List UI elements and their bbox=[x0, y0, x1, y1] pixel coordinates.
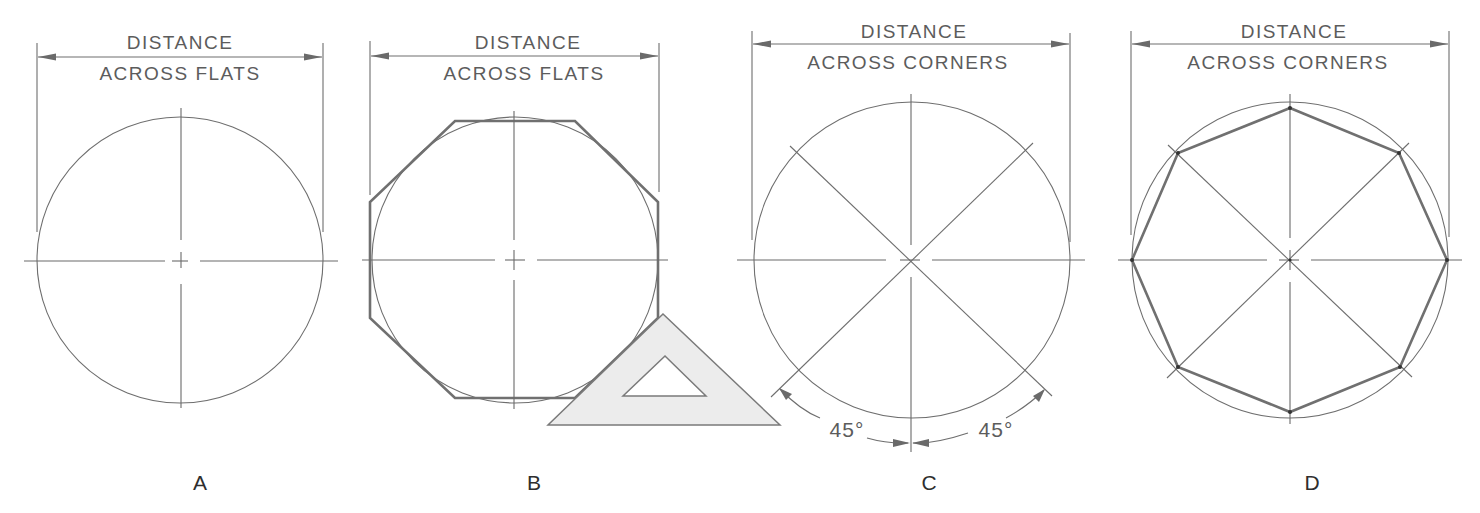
arrowhead-left-icon bbox=[753, 41, 771, 48]
panel-a: DISTANCE ACROSS FLATS A bbox=[24, 32, 338, 494]
centerlines bbox=[24, 108, 338, 408]
dimension-text-line1: DISTANCE bbox=[475, 32, 582, 53]
dimension-text-line2: ACROSS FLATS bbox=[99, 63, 260, 84]
dimension-text-line1: DISTANCE bbox=[1241, 21, 1348, 42]
angle-label-left: 45° bbox=[830, 418, 865, 441]
dimension-text-line1: DISTANCE bbox=[127, 32, 234, 53]
triangle-45-icon bbox=[548, 314, 780, 425]
dimension-text-line1: DISTANCE bbox=[861, 21, 968, 42]
arrowhead-right-icon bbox=[1430, 41, 1448, 48]
circle bbox=[37, 117, 323, 403]
arrowhead-right-icon bbox=[1051, 41, 1069, 48]
arrowhead-left-icon bbox=[371, 53, 389, 60]
angle-label-right: 45° bbox=[979, 418, 1014, 441]
octagon-construction-diagram: DISTANCE ACROSS FLATS A DISTANCE ACROSS … bbox=[0, 0, 1480, 513]
arrowhead-left-icon bbox=[1132, 41, 1150, 48]
panel-label: D bbox=[1304, 471, 1319, 494]
panel-d: DISTANCE ACROSS CORNERS bbox=[1118, 21, 1462, 494]
arrowhead-left-icon bbox=[38, 54, 56, 61]
dimension-text-line2: ACROSS FLATS bbox=[443, 63, 604, 84]
arrowhead-right-icon bbox=[304, 54, 322, 61]
panel-label: B bbox=[527, 471, 541, 494]
panel-label: A bbox=[193, 471, 207, 494]
arrowhead-right-icon bbox=[640, 53, 658, 60]
panel-c: DISTANCE ACROSS CORNERS bbox=[737, 21, 1085, 494]
panel-label: C bbox=[921, 471, 936, 494]
dimension-text-line2: ACROSS CORNERS bbox=[807, 52, 1009, 73]
dimension-text-line2: ACROSS CORNERS bbox=[1187, 52, 1389, 73]
panel-b: DISTANCE ACROSS FLATS B bbox=[362, 32, 780, 494]
